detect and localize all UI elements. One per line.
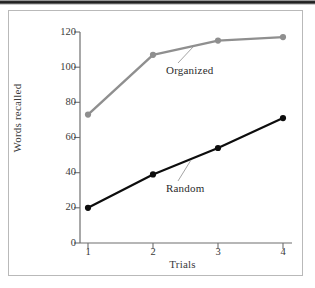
data-point bbox=[150, 52, 156, 58]
y-axis-tick-label-group: 120 100 80 60 40 20 0 bbox=[48, 0, 76, 288]
data-point bbox=[85, 205, 91, 211]
y-tick-label: 120 bbox=[50, 26, 76, 37]
y-tick-label: 0 bbox=[50, 237, 76, 248]
data-point bbox=[280, 115, 286, 121]
series-line-random bbox=[88, 118, 283, 208]
data-point bbox=[215, 38, 221, 44]
data-point bbox=[215, 145, 221, 151]
x-tick-label: 2 bbox=[143, 246, 163, 257]
x-tick-label: 4 bbox=[273, 246, 293, 257]
y-tick-label: 40 bbox=[50, 166, 76, 177]
x-axis-label: Trials bbox=[80, 258, 285, 270]
x-tick-label: 3 bbox=[208, 246, 228, 257]
y-tick-label: 20 bbox=[50, 201, 76, 212]
data-point bbox=[150, 171, 156, 177]
y-axis-label: Words recalled bbox=[11, 63, 23, 173]
x-axis-ticks bbox=[88, 243, 283, 249]
series-annotation-organized: Organized bbox=[166, 64, 213, 76]
y-tick-label: 60 bbox=[50, 131, 76, 142]
data-point bbox=[85, 112, 91, 118]
y-tick-label: 80 bbox=[50, 96, 76, 107]
data-point bbox=[280, 34, 286, 40]
x-tick-label: 1 bbox=[78, 246, 98, 257]
series-annotation-random: Random bbox=[166, 182, 204, 194]
y-tick-label: 100 bbox=[50, 61, 76, 72]
